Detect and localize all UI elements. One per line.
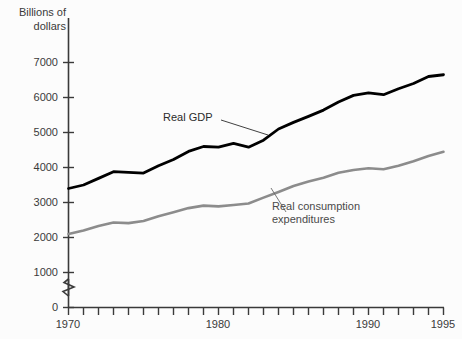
consumption-line (69, 152, 444, 234)
y-tick-label-2000: 2000 (14, 231, 58, 243)
y-tick-label-5000: 5000 (14, 126, 58, 138)
gdp-leader-line (221, 120, 268, 135)
series-label-gdp: Real GDP (163, 111, 213, 124)
x-tick-label-1990: 1990 (348, 318, 388, 330)
y-tick-label-0: 0 (14, 301, 58, 313)
series-label-consumption: Real consumption expenditures (272, 200, 360, 226)
y-axis-title: Billions of dollars (8, 5, 66, 33)
y-tick-label-1000: 1000 (14, 266, 58, 278)
x-tick-label-1995: 1995 (423, 318, 462, 330)
y-tick-label-7000: 7000 (14, 56, 58, 68)
x-tick-label-1970: 1970 (48, 318, 88, 330)
chart-plot-area (0, 0, 462, 339)
y-tick-label-4000: 4000 (14, 161, 58, 173)
y-tick-label-3000: 3000 (14, 196, 58, 208)
x-tick-label-1980: 1980 (198, 318, 238, 330)
x-axis-ticks (69, 308, 444, 316)
chart-container: Billions of dollars 7000 6000 5000 4000 … (0, 0, 462, 339)
y-tick-label-6000: 6000 (14, 91, 58, 103)
